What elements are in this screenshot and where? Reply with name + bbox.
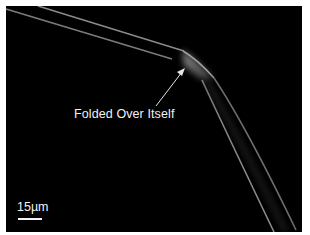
fiber-edge-descending-right [214, 78, 296, 230]
scale-bar [18, 218, 42, 220]
fold-region [182, 50, 214, 80]
fiber-edge-upper [38, 6, 184, 51]
fiber-edge-lower [6, 9, 172, 59]
micrograph-image: Folded Over Itself 15µm [6, 6, 302, 232]
annotation-arrow [156, 68, 185, 106]
scale-bar-label: 15µm [17, 200, 49, 214]
annotation-label: Folded Over Itself [74, 107, 174, 121]
fiber-edge-descending-left [202, 80, 274, 232]
